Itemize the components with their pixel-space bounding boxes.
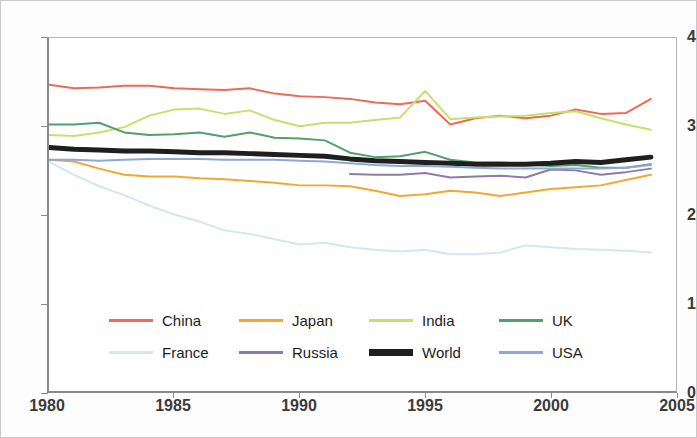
legend-swatch-icon (499, 319, 543, 322)
x-tick-label: 1990 (281, 397, 317, 415)
x-tick-label: 2000 (533, 397, 569, 415)
legend-row: ChinaJapanIndiaUK (109, 304, 629, 336)
legend-item-china[interactable]: China (109, 312, 239, 329)
legend-label: Japan (292, 312, 333, 329)
x-tick-label: 1980 (29, 397, 65, 415)
legend-label: UK (552, 312, 573, 329)
legend-item-france[interactable]: France (109, 344, 239, 361)
legend-swatch-icon (369, 319, 413, 322)
x-tick-label: 1995 (407, 397, 443, 415)
legend-label: France (162, 344, 209, 361)
legend-label: India (422, 312, 455, 329)
line-series-china (49, 85, 651, 125)
legend-item-russia[interactable]: Russia (239, 344, 369, 361)
legend-item-india[interactable]: India (369, 312, 499, 329)
legend-label: World (422, 344, 461, 361)
x-tick-label: 1985 (155, 397, 191, 415)
x-tick-mark (173, 393, 174, 398)
legend-swatch-icon (369, 349, 413, 356)
legend-item-japan[interactable]: Japan (239, 312, 369, 329)
legend-swatch-icon (499, 351, 543, 354)
legend-label: Russia (292, 344, 338, 361)
legend-swatch-icon (109, 351, 153, 354)
y-tick-mark (41, 393, 48, 394)
line-series-russia (350, 169, 651, 178)
legend-row: FranceRussiaWorldUSA (109, 336, 629, 368)
legend-label: China (162, 312, 201, 329)
legend-item-uk[interactable]: UK (499, 312, 629, 329)
x-tick-mark (299, 393, 300, 398)
chart-legend: ChinaJapanIndiaUKFranceRussiaWorldUSA (109, 304, 629, 368)
legend-item-world[interactable]: World (369, 344, 499, 361)
chart-figure: 01234 198019851990199520002005 ChinaJapa… (0, 0, 697, 438)
line-series-world (49, 147, 651, 164)
legend-swatch-icon (109, 319, 153, 322)
x-tick-mark (551, 393, 552, 398)
legend-label: USA (552, 344, 583, 361)
x-tick-mark (677, 393, 678, 398)
legend-swatch-icon (239, 351, 283, 354)
x-tick-mark (425, 393, 426, 398)
x-tick-label: 2005 (659, 397, 695, 415)
legend-swatch-icon (239, 319, 283, 322)
legend-item-usa[interactable]: USA (499, 344, 629, 361)
